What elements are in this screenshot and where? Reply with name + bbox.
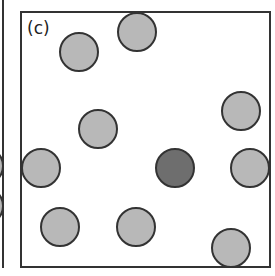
highlighted-particle — [156, 149, 194, 187]
particle — [231, 149, 269, 187]
particle — [41, 208, 79, 246]
particle — [22, 149, 60, 187]
particle — [60, 33, 98, 71]
particle — [118, 13, 156, 51]
particle-diagram — [0, 0, 275, 276]
panel-label: (c) — [27, 18, 50, 38]
particle — [79, 110, 117, 148]
neighbor-panel-edge — [0, 0, 3, 268]
particle — [117, 208, 155, 246]
particle — [212, 229, 250, 267]
particle — [222, 92, 260, 130]
